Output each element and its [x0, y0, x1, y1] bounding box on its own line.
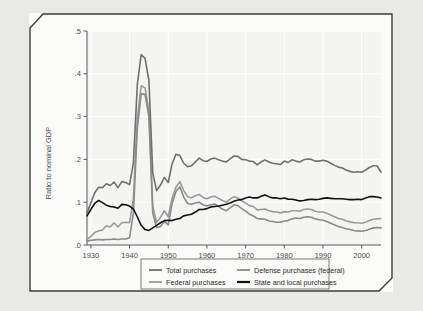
y-axis-title: Ratio to nominal GDP — [44, 127, 53, 200]
legend-label: State and local purchases — [254, 278, 337, 287]
legend-label: Total purchases — [166, 266, 217, 275]
x-tick-label: 1940 — [121, 251, 138, 260]
legend-label: Federal purchases — [166, 278, 226, 287]
chart-page: .0.1.2.3.4.5 193019401950196019701980199… — [0, 0, 423, 311]
line-chart: .0.1.2.3.4.5 193019401950196019701980199… — [29, 13, 393, 292]
y-tick-label: .0 — [75, 241, 81, 250]
chart-legend: Total purchasesDefense purchases (federa… — [141, 259, 345, 289]
y-tick-label: .2 — [75, 155, 81, 164]
x-tick-label: 1930 — [83, 251, 100, 260]
plot-area-wrapper: .0.1.2.3.4.5 193019401950196019701980199… — [29, 13, 393, 292]
figure-frame: .0.1.2.3.4.5 193019401950196019701980199… — [29, 13, 393, 292]
x-tick-label: 2000 — [353, 251, 370, 260]
y-tick-label: .3 — [75, 112, 81, 121]
x-axis — [87, 245, 381, 249]
legend-label: Defense purchases (federal) — [254, 266, 345, 275]
y-tick-label: .4 — [75, 69, 81, 78]
y-tick-label: .1 — [75, 198, 81, 207]
y-tick-label: .5 — [75, 27, 81, 36]
y-tick-labels: .0.1.2.3.4.5 — [75, 27, 81, 250]
